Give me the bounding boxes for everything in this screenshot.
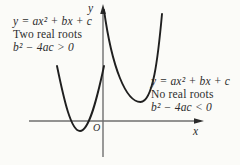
equation-line: y = ax² + bx + c xyxy=(151,75,230,88)
discriminant-line: b² − 4ac > 0 xyxy=(13,41,92,54)
discriminant-line: b² − 4ac < 0 xyxy=(151,101,230,114)
annotation-no-real-roots: y = ax² + bx + c No real roots b² − 4ac … xyxy=(151,75,230,114)
description-line: Two real roots xyxy=(13,28,92,41)
origin-label: O xyxy=(93,123,100,133)
quadratic-discriminant-figure: y x O y = ax² + bx + c Two real roots b²… xyxy=(0,0,240,165)
x-axis-label: x xyxy=(193,126,198,137)
annotation-two-real-roots: y = ax² + bx + c Two real roots b² − 4ac… xyxy=(13,15,92,54)
x-axis-arrowhead-icon xyxy=(194,118,204,124)
equation-line: y = ax² + bx + c xyxy=(13,15,92,28)
description-line: No real roots xyxy=(151,88,230,101)
y-axis-label: y xyxy=(88,3,93,14)
